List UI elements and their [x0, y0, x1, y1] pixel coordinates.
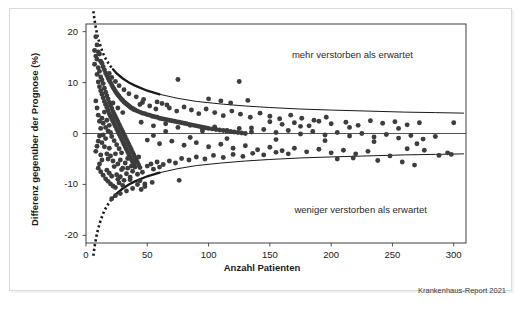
x-tick-label: 0: [66, 249, 106, 260]
x-tick-label: 150: [250, 249, 290, 260]
upper-control-limit-solid-near: [113, 69, 160, 94]
scatter-point: [188, 135, 193, 140]
scatter-point: [243, 131, 248, 136]
scatter-point: [128, 177, 133, 182]
scatter-point: [96, 166, 101, 171]
scatter-point: [351, 156, 356, 161]
scatter-point: [267, 119, 272, 124]
scatter-point: [161, 162, 166, 167]
scatter-point: [274, 137, 279, 142]
scatter-point: [118, 158, 123, 163]
lower-control-limit-dashed: [93, 198, 113, 256]
scatter-point: [167, 159, 172, 164]
scatter-point: [129, 164, 134, 169]
scatter-point: [245, 98, 250, 103]
scatter-point: [229, 109, 234, 114]
scatter-point: [124, 189, 129, 194]
scatter-point: [149, 162, 154, 167]
scatter-point: [388, 153, 393, 158]
scatter-point: [228, 100, 233, 105]
scatter-point: [280, 148, 285, 153]
scatter-point: [137, 165, 142, 170]
scatter-point: [343, 120, 348, 125]
y-tick-label: -10: [48, 178, 78, 189]
scatter-point: [372, 135, 377, 140]
y-tick-label: 10: [48, 77, 78, 88]
scatter-point: [292, 120, 297, 125]
scatter-point: [218, 98, 223, 103]
scatter-point: [196, 111, 201, 116]
scatter-point: [139, 120, 144, 125]
scatter-point: [335, 157, 340, 162]
x-tick-label: 100: [189, 249, 229, 260]
scatter-point: [286, 151, 291, 156]
scatter-point: [140, 170, 145, 175]
scatter-point: [316, 119, 321, 124]
scatter-point: [433, 134, 438, 139]
scatter-point: [97, 134, 102, 139]
scatter-point: [122, 87, 127, 92]
scatter-point: [96, 139, 101, 144]
scatter-point: [174, 109, 179, 114]
chart-annotation: mehr verstorben als erwartet: [292, 49, 413, 60]
scatter-point: [231, 146, 236, 151]
scatter-point: [126, 91, 131, 96]
scatter-point: [133, 159, 138, 164]
chart-annotation: weniger verstorben als erwartet: [294, 204, 427, 215]
scatter-point: [286, 128, 291, 133]
scatter-point: [122, 178, 127, 183]
scatter-point: [99, 158, 104, 163]
scatter-point: [177, 178, 182, 183]
scatter-point: [417, 120, 422, 125]
scatter-point: [240, 154, 245, 159]
scatter-point: [288, 113, 293, 118]
scatter-point: [243, 143, 248, 148]
scatter-point: [372, 139, 377, 144]
scatter-point: [97, 119, 102, 124]
scatter-point: [120, 110, 125, 115]
scatter-point: [380, 121, 385, 126]
scatter-point: [96, 80, 101, 85]
scatter-point: [250, 151, 255, 156]
scatter-point: [206, 96, 211, 101]
y-tick-label: 0: [48, 128, 78, 139]
scatter-point: [237, 79, 242, 84]
scatter-point: [194, 154, 199, 159]
scatter-point: [125, 156, 130, 161]
scatter-point: [107, 146, 112, 151]
scatter-point: [130, 186, 135, 191]
scatter-point: [212, 124, 217, 129]
scatter-point: [200, 129, 205, 134]
source-credit: Krankenhaus-Report 2021: [418, 286, 506, 295]
scatter-point: [95, 42, 100, 47]
scatter-point: [206, 144, 211, 149]
scatter-point: [153, 107, 158, 112]
scatter-point: [292, 146, 297, 151]
scatter-point: [95, 106, 100, 111]
scatter-point: [111, 159, 116, 164]
scatter-point: [445, 150, 450, 155]
scatter-point: [109, 196, 114, 201]
scatter-point: [179, 156, 184, 161]
scatter-point: [123, 161, 128, 166]
scatter-point: [147, 104, 152, 109]
scatter-point: [408, 133, 413, 138]
scatter-point: [109, 134, 114, 139]
funnel-plot-figure: Differenz gegenüber der Prognose (%) Anz…: [0, 0, 524, 314]
scatter-point: [117, 180, 122, 185]
scatter-point: [151, 133, 156, 138]
scatter-point: [118, 191, 123, 196]
scatter-point: [421, 137, 426, 142]
scatter-point: [98, 126, 103, 131]
scatter-point: [113, 79, 118, 84]
scatter-point: [202, 157, 207, 162]
scatter-point: [104, 118, 109, 123]
scatter-point: [422, 148, 427, 153]
scatter-point: [102, 144, 107, 149]
scatter-point: [182, 105, 187, 110]
scatter-point: [323, 133, 328, 138]
scatter-point: [204, 107, 209, 112]
scatter-point: [347, 125, 352, 130]
scatter-point: [141, 97, 146, 102]
scatter-point: [316, 147, 321, 152]
